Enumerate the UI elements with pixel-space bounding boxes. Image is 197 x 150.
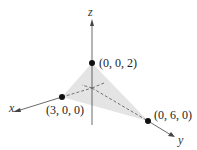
3d-plane-diagram bbox=[0, 0, 197, 150]
y-axis-solid bbox=[148, 121, 171, 135]
point-label-x: (3, 0, 0) bbox=[46, 104, 84, 116]
point-z-intercept bbox=[89, 60, 95, 66]
y-axis-label: y bbox=[178, 134, 183, 146]
y-axis-arrow-icon bbox=[168, 132, 175, 137]
point-y-intercept bbox=[145, 118, 151, 124]
z-axis-arrow-icon bbox=[90, 19, 94, 26]
z-axis-label: z bbox=[88, 6, 93, 18]
point-x-intercept bbox=[59, 94, 65, 100]
x-axis-label: x bbox=[9, 102, 14, 114]
point-label-y: (0, 6, 0) bbox=[154, 109, 192, 121]
point-label-z: (0, 0, 2) bbox=[99, 57, 137, 69]
